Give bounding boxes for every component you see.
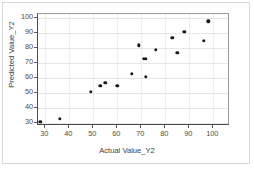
x-tick-mark bbox=[140, 125, 141, 128]
x-tick-label: 60 bbox=[105, 130, 127, 137]
data-point bbox=[137, 44, 140, 47]
y-tick-mark bbox=[34, 47, 37, 48]
gridline-horizontal bbox=[38, 108, 228, 109]
gridline-horizontal bbox=[38, 18, 228, 19]
y-tick-mark bbox=[34, 62, 37, 63]
data-point bbox=[115, 84, 118, 87]
y-tick-label: 30 bbox=[7, 118, 33, 125]
data-point bbox=[175, 51, 178, 54]
x-tick-mark bbox=[92, 125, 93, 128]
data-point bbox=[202, 39, 205, 42]
data-point bbox=[207, 20, 210, 23]
gridline-vertical bbox=[189, 14, 190, 124]
scatter-plot-figure: 30405060708090100 30405060708090100 Pred… bbox=[0, 0, 254, 169]
x-axis-label: Actual Value_Y2 bbox=[0, 146, 254, 155]
gridline-horizontal bbox=[38, 93, 228, 94]
gridline-horizontal bbox=[38, 123, 228, 124]
gridline-vertical bbox=[117, 14, 118, 124]
x-tick-label: 40 bbox=[57, 130, 79, 137]
data-point bbox=[99, 84, 102, 87]
x-tick-mark bbox=[188, 125, 189, 128]
gridline-vertical bbox=[213, 14, 214, 124]
gridline-vertical bbox=[165, 14, 166, 124]
data-point bbox=[103, 81, 106, 84]
x-tick-label: 90 bbox=[177, 130, 199, 137]
y-axis-label: Predicted Value_Y2 bbox=[7, 0, 16, 110]
gridline-vertical bbox=[45, 14, 46, 124]
y-tick-mark bbox=[34, 77, 37, 78]
plot-area bbox=[37, 13, 229, 125]
y-tick-mark bbox=[34, 17, 37, 18]
x-tick-label: 70 bbox=[129, 130, 151, 137]
gridline-horizontal bbox=[38, 48, 228, 49]
x-tick-label: 80 bbox=[153, 130, 175, 137]
y-tick-mark bbox=[34, 32, 37, 33]
data-point bbox=[130, 72, 133, 75]
y-tick-mark bbox=[34, 107, 37, 108]
gridline-vertical bbox=[69, 14, 70, 124]
data-point bbox=[154, 48, 157, 51]
y-tick-mark bbox=[34, 92, 37, 93]
gridline-vertical bbox=[93, 14, 94, 124]
data-point bbox=[171, 36, 174, 39]
data-point bbox=[58, 117, 61, 120]
y-tick-mark bbox=[34, 122, 37, 123]
gridline-horizontal bbox=[38, 33, 228, 34]
x-tick-mark bbox=[212, 125, 213, 128]
x-tick-mark bbox=[68, 125, 69, 128]
gridline-horizontal bbox=[38, 63, 228, 64]
gridline-horizontal bbox=[38, 78, 228, 79]
x-tick-label: 30 bbox=[33, 130, 55, 137]
x-tick-label: 100 bbox=[201, 130, 223, 137]
x-tick-mark bbox=[164, 125, 165, 128]
x-tick-label: 50 bbox=[81, 130, 103, 137]
data-point bbox=[144, 57, 147, 60]
x-tick-mark bbox=[44, 125, 45, 128]
gridline-vertical bbox=[141, 14, 142, 124]
x-tick-mark bbox=[116, 125, 117, 128]
